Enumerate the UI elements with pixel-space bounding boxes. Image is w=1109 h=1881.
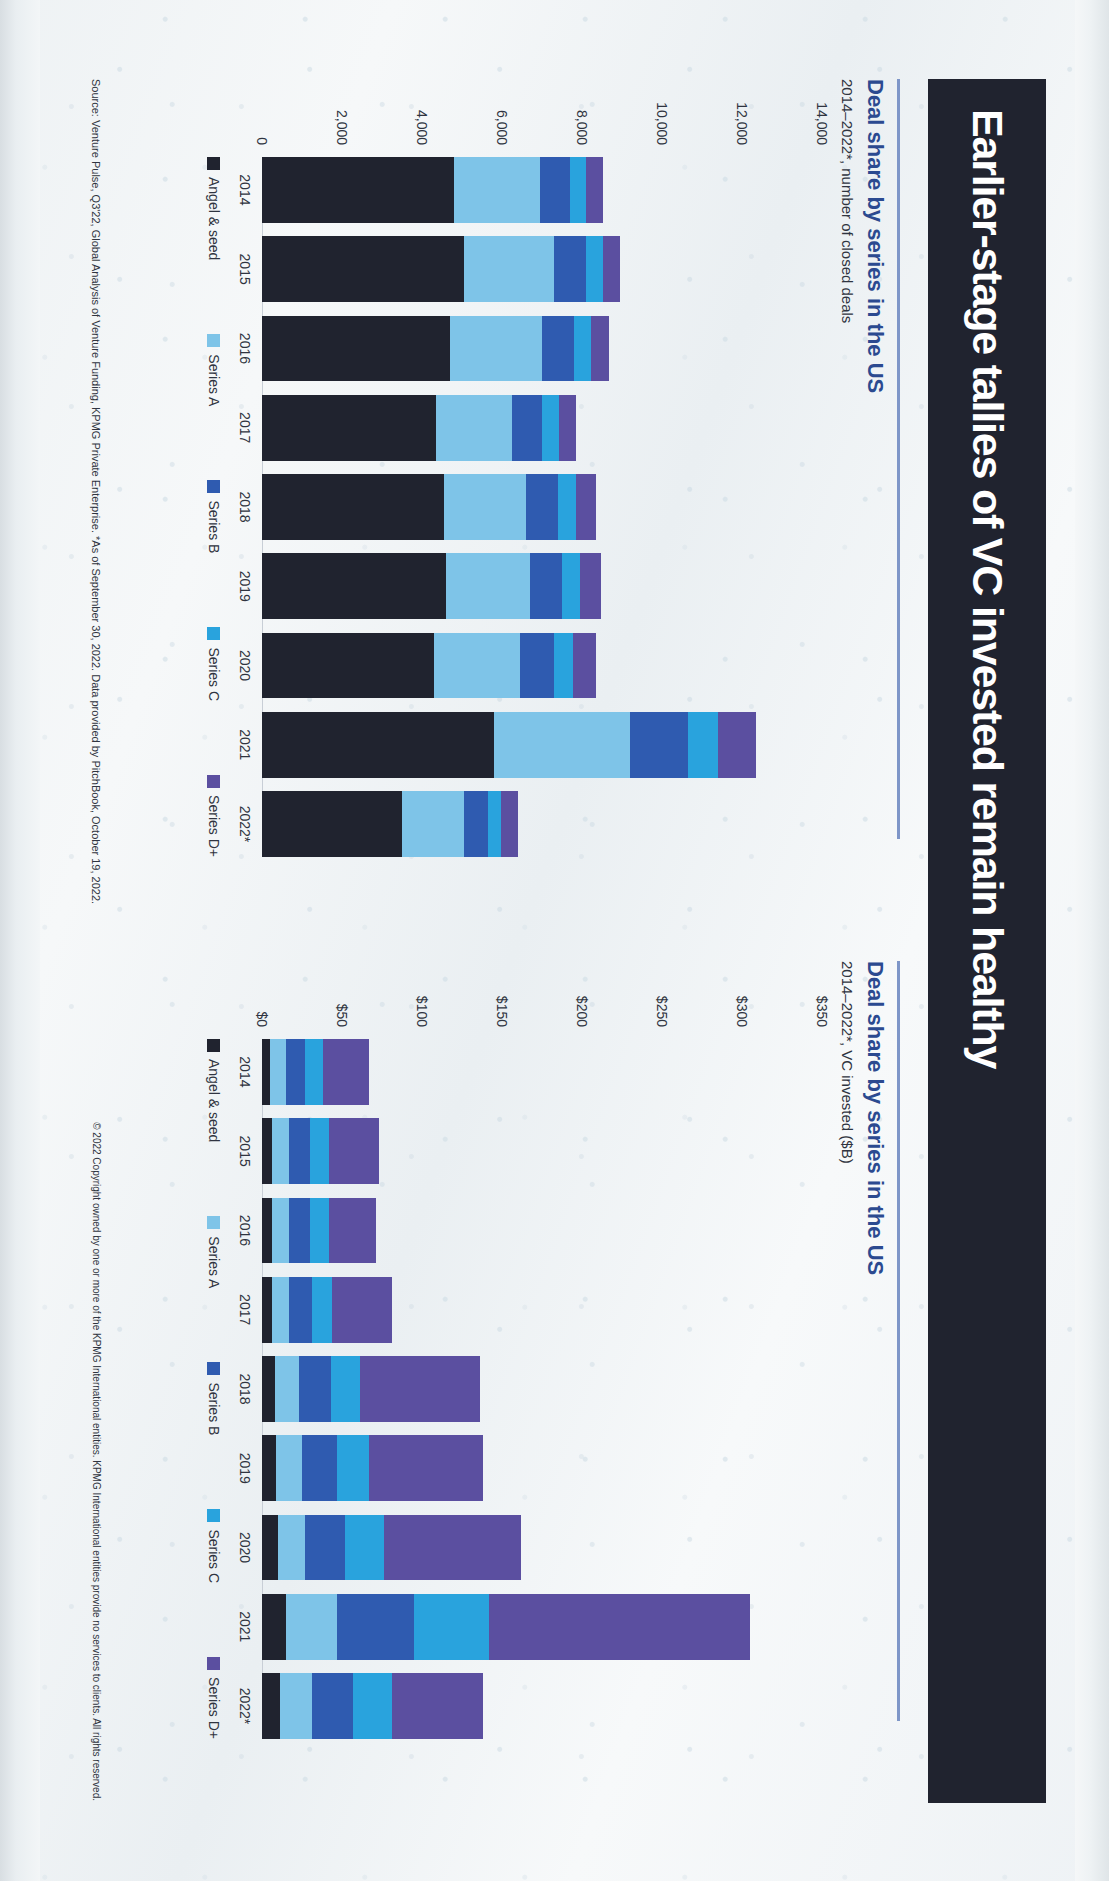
bar-segment-series-c[interactable] (353, 1673, 391, 1739)
bar-segment-series-d[interactable] (391, 1673, 482, 1739)
legend-item[interactable]: Series A (206, 334, 222, 406)
bar-segment-series-c[interactable] (345, 1514, 383, 1580)
bar-segment-series-b[interactable] (286, 1039, 305, 1105)
bar-segment-angel-seed[interactable] (262, 1276, 272, 1342)
bar-segment-series-a[interactable] (279, 1673, 311, 1739)
bar-segment-angel-seed[interactable] (262, 1118, 272, 1184)
bar-segment-series-c[interactable] (311, 1276, 332, 1342)
bar-segment-series-b[interactable] (301, 1435, 336, 1501)
bar-segment-series-a[interactable] (271, 1197, 289, 1263)
bar-segment-angel-seed[interactable] (262, 1356, 275, 1422)
bar-column[interactable]: 2014 (262, 1039, 822, 1105)
bar-segment-series-a[interactable] (276, 1435, 302, 1501)
bar-segment-series-a[interactable] (271, 1276, 289, 1342)
bar-column[interactable]: 2014 (262, 157, 822, 223)
bar-segment-series-b[interactable] (289, 1197, 310, 1263)
bar-segment-series-c[interactable] (488, 791, 501, 857)
bar-segment-angel-seed[interactable] (262, 791, 402, 857)
bar-segment-series-b[interactable] (542, 315, 574, 381)
legend-item[interactable]: Series C (206, 1509, 222, 1583)
bar-column[interactable]: 2015 (262, 236, 822, 302)
bar-segment-series-c[interactable] (309, 1197, 328, 1263)
bar-segment-series-a[interactable] (446, 553, 530, 619)
bar-segment-series-a[interactable] (402, 791, 464, 857)
bar-segment-angel-seed[interactable] (262, 711, 494, 777)
bar-segment-series-d[interactable] (586, 157, 603, 223)
bar-segment-series-d[interactable] (501, 791, 518, 857)
bar-segment-series-b[interactable] (512, 394, 542, 460)
bar-segment-series-a[interactable] (278, 1514, 305, 1580)
bar-segment-series-c[interactable] (554, 632, 573, 698)
bar-segment-series-c[interactable] (586, 236, 603, 302)
bar-segment-series-a[interactable] (271, 1118, 289, 1184)
bar-segment-angel-seed[interactable] (262, 394, 436, 460)
bar-segment-series-c[interactable] (309, 1118, 328, 1184)
bar-segment-angel-seed[interactable] (262, 553, 446, 619)
bar-segment-angel-seed[interactable] (262, 236, 464, 302)
legend-item[interactable]: Angel & seed (206, 157, 222, 260)
bar-column[interactable]: 2018 (262, 1356, 822, 1422)
legend-item[interactable]: Series B (206, 480, 222, 553)
bar-segment-series-d[interactable] (369, 1435, 483, 1501)
bar-segment-series-a[interactable] (436, 394, 512, 460)
bar-segment-series-b[interactable] (298, 1356, 330, 1422)
bar-segment-angel-seed[interactable] (262, 474, 444, 540)
legend-item[interactable]: Series D+ (206, 775, 222, 857)
bar-segment-series-b[interactable] (289, 1118, 310, 1184)
bar-column[interactable]: 2021 (262, 711, 822, 777)
bar-segment-series-d[interactable] (359, 1356, 479, 1422)
bar-segment-series-a[interactable] (286, 1593, 337, 1659)
bar-segment-series-b[interactable] (554, 236, 586, 302)
bar-segment-series-d[interactable] (580, 553, 601, 619)
bar-segment-series-a[interactable] (450, 315, 542, 381)
bar-segment-angel-seed[interactable] (262, 1673, 280, 1739)
bar-segment-angel-seed[interactable] (262, 1514, 278, 1580)
bar-segment-series-d[interactable] (489, 1593, 750, 1659)
bar-segment-angel-seed[interactable] (262, 1435, 276, 1501)
bar-segment-series-a[interactable] (444, 474, 526, 540)
bar-segment-series-b[interactable] (526, 474, 558, 540)
bar-segment-series-d[interactable] (329, 1197, 375, 1263)
bar-column[interactable]: 2022* (262, 1673, 822, 1739)
bar-segment-series-c[interactable] (330, 1356, 359, 1422)
legend-item[interactable]: Angel & seed (206, 1039, 222, 1142)
bar-segment-angel-seed[interactable] (262, 315, 450, 381)
bar-segment-series-b[interactable] (305, 1514, 345, 1580)
bar-segment-series-b[interactable] (337, 1593, 414, 1659)
bar-segment-series-c[interactable] (688, 711, 718, 777)
bar-column[interactable]: 2016 (262, 315, 822, 381)
bar-segment-series-b[interactable] (630, 711, 688, 777)
bar-segment-series-a[interactable] (270, 1039, 286, 1105)
bar-segment-series-c[interactable] (542, 394, 559, 460)
bar-segment-series-d[interactable] (383, 1514, 521, 1580)
bar-segment-series-b[interactable] (540, 157, 570, 223)
bar-segment-series-d[interactable] (322, 1039, 368, 1105)
bar-segment-series-d[interactable] (558, 394, 576, 460)
bar-segment-series-d[interactable] (718, 711, 756, 777)
bar-segment-series-d[interactable] (329, 1118, 379, 1184)
bar-segment-series-b[interactable] (464, 791, 488, 857)
bar-segment-series-a[interactable] (434, 632, 520, 698)
bar-column[interactable]: 2018 (262, 474, 822, 540)
legend-item[interactable]: Series D+ (206, 1657, 222, 1739)
bar-segment-series-b[interactable] (311, 1673, 353, 1739)
bar-column[interactable]: 2020 (262, 1514, 822, 1580)
bar-segment-angel-seed[interactable] (262, 1197, 272, 1263)
bar-segment-angel-seed[interactable] (262, 1593, 286, 1659)
bar-column[interactable]: 2017 (262, 1276, 822, 1342)
bar-segment-series-c[interactable] (305, 1039, 323, 1105)
bar-column[interactable]: 2022* (262, 791, 822, 857)
bar-column[interactable]: 2017 (262, 394, 822, 460)
bar-segment-series-d[interactable] (602, 236, 619, 302)
bar-segment-series-d[interactable] (591, 315, 609, 381)
bar-segment-series-c[interactable] (562, 553, 580, 619)
bar-segment-series-a[interactable] (464, 236, 554, 302)
bar-segment-series-b[interactable] (520, 632, 554, 698)
bar-column[interactable]: 2019 (262, 553, 822, 619)
bar-segment-series-d[interactable] (332, 1276, 391, 1342)
bar-segment-series-d[interactable] (576, 474, 596, 540)
bar-segment-series-c[interactable] (413, 1593, 488, 1659)
legend-item[interactable]: Series A (206, 1216, 222, 1288)
bar-segment-series-c[interactable] (570, 157, 586, 223)
bar-segment-series-a[interactable] (494, 711, 630, 777)
